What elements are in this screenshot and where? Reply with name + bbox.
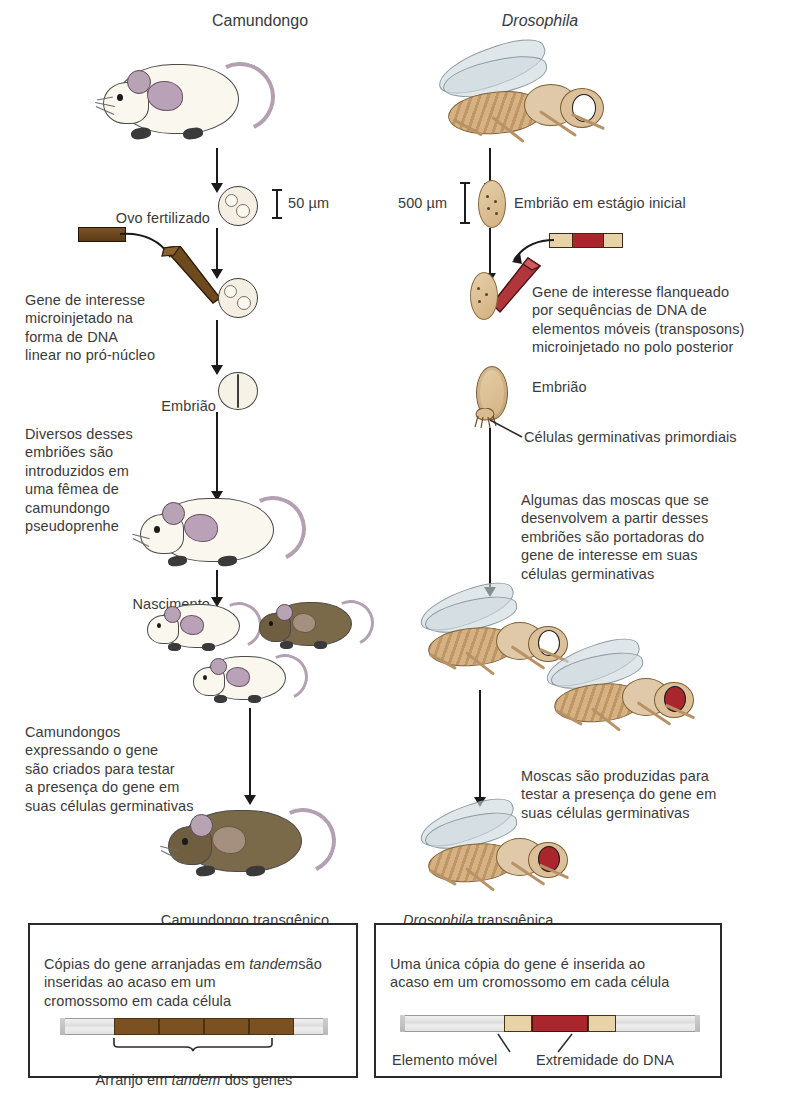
down-arrow-icon-fly-1 — [489, 148, 491, 184]
panel-mouse-text-italic: tandem — [249, 956, 298, 972]
fly-icon-red-eye-1 — [538, 644, 718, 738]
fly-icon-adult — [432, 46, 632, 152]
germ-cells-leader-line — [488, 418, 528, 440]
embryo-2cell-icon — [218, 372, 258, 410]
mouse-icon-pup-white-2 — [188, 648, 308, 710]
tandem-array-brace — [112, 1037, 274, 1053]
scale-bar-icon-left — [272, 189, 284, 219]
scale-label-left: 50 µm — [288, 194, 329, 213]
label-early-embryo: Embrião em estágio inicial — [514, 194, 686, 213]
brace-label-italic: tandem — [172, 1072, 221, 1088]
label-fertilized-egg: Ovo fertilizado — [100, 190, 210, 227]
egg-icon-injected — [218, 278, 258, 318]
fly-icon-transgenic — [412, 804, 592, 898]
caption-mouse-injection: Gene de interesse microinjetado na forma… — [25, 272, 195, 365]
panel-mouse-text-part1: Cópias do gene arranjadas em — [44, 956, 249, 972]
down-arrow-icon-mouse-5 — [216, 570, 218, 598]
column-title-mouse-label: Camundongo — [212, 12, 308, 29]
down-arrow-icon-mouse-2 — [216, 228, 218, 270]
egg-icon-fertilized — [218, 186, 258, 226]
label-fly-embryo: Embrião — [532, 378, 587, 397]
brace-label-part1: Arranjo em — [96, 1072, 172, 1088]
column-title-drosophila: Drosophila — [430, 12, 650, 30]
down-arrow-icon-mouse-3 — [216, 320, 218, 366]
dna-construct-transposon-icon — [549, 233, 623, 248]
caption-fly-development: Algumas das moscas que se desenvolvem a … — [521, 472, 786, 583]
brace-label-part2: dos genes — [221, 1072, 293, 1088]
panel-fly-text: Uma única cópia do gene é inserida ao ac… — [390, 936, 712, 992]
column-title-mouse: Camundongo — [150, 12, 370, 30]
panel-fly-label-mobile-element: Elemento móvel — [392, 1051, 497, 1070]
column-title-drosophila-label: Drosophila — [502, 12, 578, 29]
down-arrow-icon-fly-3 — [489, 428, 491, 588]
mouse-icon-transgenic — [158, 798, 348, 890]
panel-mouse-insertion: Cópias do gene arranjadas em tandemsão i… — [28, 923, 358, 1078]
mouse-icon-adult — [95, 48, 275, 148]
caption-fly-injection: Gene de interesse flanqueado por sequênc… — [532, 264, 784, 357]
down-arrow-icon-mouse-6 — [249, 708, 251, 796]
panel-mouse-brace-label: Arranjo em tandem dos genes — [44, 1052, 344, 1089]
chromosome-icon-tandem — [60, 1018, 328, 1035]
diagram-root: Camundongo Drosophila Ovo fertilizado 50… — [0, 0, 793, 1097]
scale-bar-icon-right — [460, 182, 472, 224]
label-germ-cells: Células germinativas primordiais — [524, 428, 737, 447]
mouse-icon-pseudopregnant — [130, 486, 310, 578]
chromosome-icon-single-insert — [400, 1015, 700, 1032]
fly-egg-icon-early — [478, 180, 506, 228]
fly-egg-icon-injected — [470, 272, 498, 320]
panel-fly-insertion: Uma única cópia do gene é inserida ao ac… — [374, 923, 722, 1078]
down-arrow-icon-fly-2 — [489, 228, 491, 274]
down-arrow-icon-mouse-1 — [216, 148, 218, 184]
mouse-icon-pup-brown — [254, 594, 374, 656]
down-arrow-icon-mouse-4 — [216, 412, 218, 492]
down-arrow-icon-fly-4 — [479, 690, 481, 798]
scale-label-right: 500 µm — [398, 194, 447, 213]
panel-fly-label-dna-end: Extremidade do DNA — [536, 1051, 674, 1070]
